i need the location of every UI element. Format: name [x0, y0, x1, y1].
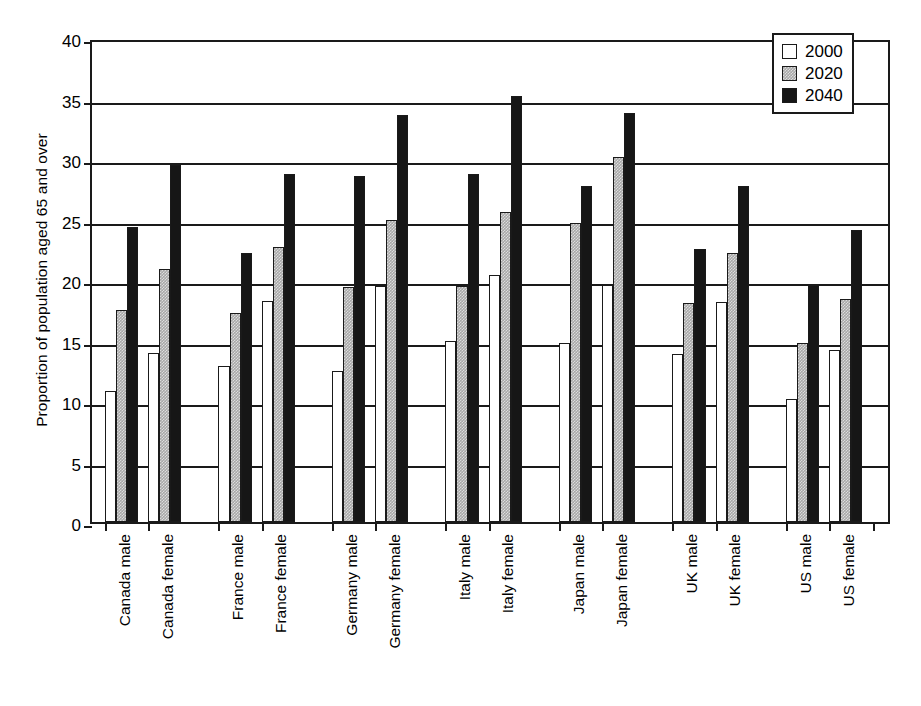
bar-group	[332, 42, 375, 522]
x-axis-label: Japan female	[613, 534, 631, 664]
x-axis-tick-mark	[559, 522, 561, 531]
x-axis-label: Canada female	[159, 534, 177, 664]
chart-legend: 2000 2020 2040	[772, 33, 854, 114]
x-axis-tick-mark	[375, 522, 377, 531]
bar-2020	[500, 212, 511, 522]
x-axis-label: US female	[840, 534, 858, 664]
bar-2020	[613, 157, 624, 522]
bar-2020	[159, 269, 170, 522]
legend-item-2040: 2040	[782, 84, 843, 106]
legend-swatch-2040-icon	[782, 88, 797, 103]
bar-2000	[218, 366, 229, 522]
legend-item-2000: 2000	[782, 40, 843, 62]
x-axis-tick-mark	[489, 522, 491, 531]
bar-group	[602, 42, 645, 522]
x-axis-tick-mark	[716, 522, 718, 531]
y-axis-tick-mark	[84, 42, 92, 44]
bar-group	[559, 42, 602, 522]
bar-2040	[241, 253, 252, 522]
x-axis-tick-mark	[105, 522, 107, 531]
bar-group	[672, 42, 715, 522]
bar-2000	[375, 286, 386, 522]
bar-2040	[397, 115, 408, 522]
y-axis-title: Proportion of population aged 65 and ove…	[22, 30, 62, 530]
legend-label-2000: 2000	[805, 43, 843, 60]
legend-swatch-2020-icon	[782, 66, 797, 81]
bar-2040	[738, 186, 749, 522]
bar-2020	[727, 253, 738, 522]
x-axis-tick-mark	[445, 522, 447, 531]
legend-label-2020: 2020	[805, 65, 843, 82]
bar-2000	[332, 371, 343, 522]
bar-2000	[148, 353, 159, 522]
bar-group	[786, 42, 829, 522]
y-axis-title-container: Proportion of population aged 65 and ove…	[22, 30, 62, 530]
x-axis-label: Germany male	[343, 534, 361, 664]
bar-series-container	[92, 42, 888, 522]
x-axis-tick-mark	[148, 522, 150, 531]
x-axis-tick-mark	[786, 522, 788, 531]
bar-2040	[624, 113, 635, 522]
x-axis-tick-mark	[262, 522, 264, 531]
x-axis-label: UK male	[683, 534, 701, 664]
bar-2020	[230, 313, 241, 522]
x-axis-label: France female	[272, 534, 290, 664]
y-axis-tick-mark	[84, 345, 92, 347]
legend-item-2020: 2020	[782, 62, 843, 84]
legend-label-2040: 2040	[805, 87, 843, 104]
legend-swatch-2000-icon	[782, 44, 797, 59]
bar-group	[489, 42, 532, 522]
bar-2000	[105, 391, 116, 522]
x-axis-label: France male	[229, 534, 247, 664]
bar-2000	[445, 341, 456, 523]
x-axis-label: Germany female	[386, 534, 404, 664]
bar-2020	[116, 310, 127, 522]
bar-2020	[570, 223, 581, 522]
bar-2040	[170, 165, 181, 522]
bar-2040	[581, 186, 592, 522]
bar-2020	[840, 299, 851, 522]
bar-2020	[797, 343, 808, 522]
bar-2020	[386, 220, 397, 523]
bar-group	[716, 42, 759, 522]
y-axis-tick-mark	[84, 103, 92, 105]
y-axis-tick-mark	[84, 526, 92, 528]
bar-2040	[851, 230, 862, 522]
x-axis-tick-mark	[873, 522, 875, 531]
bar-2040	[808, 285, 819, 522]
y-axis-tick-mark	[84, 284, 92, 286]
x-axis-tick-mark	[672, 522, 674, 531]
bar-2000	[559, 343, 570, 522]
bar-2040	[127, 227, 138, 522]
x-axis-tick-mark	[602, 522, 604, 531]
bar-2000	[672, 354, 683, 522]
y-axis-tick-mark	[84, 163, 92, 165]
x-axis-label: Japan male	[570, 534, 588, 664]
x-axis-tick-mark	[829, 522, 831, 531]
bar-2040	[511, 96, 522, 522]
x-axis-label: Italy male	[456, 534, 474, 664]
bar-2020	[456, 286, 467, 522]
bar-group	[829, 42, 872, 522]
bar-2040	[354, 176, 365, 522]
bar-2000	[602, 285, 613, 522]
bar-2040	[468, 174, 479, 522]
bar-group	[105, 42, 148, 522]
x-axis-label: Canada male	[116, 534, 134, 664]
bar-2040	[694, 249, 705, 522]
bar-group	[148, 42, 191, 522]
bar-2000	[786, 399, 797, 522]
bar-2000	[829, 350, 840, 522]
y-axis-tick-mark	[84, 224, 92, 226]
bar-2020	[683, 303, 694, 522]
bar-2040	[284, 174, 295, 522]
y-axis-tick-mark	[84, 405, 92, 407]
x-axis-category-labels: Canada maleCanada femaleFrance maleFranc…	[90, 534, 890, 664]
bar-2000	[716, 302, 727, 522]
bar-group	[375, 42, 418, 522]
bar-group	[218, 42, 261, 522]
plot-area: 0510152025303540	[90, 40, 890, 524]
x-axis-tick-mark	[218, 522, 220, 531]
bar-2000	[262, 301, 273, 522]
x-axis-label: UK female	[726, 534, 744, 664]
